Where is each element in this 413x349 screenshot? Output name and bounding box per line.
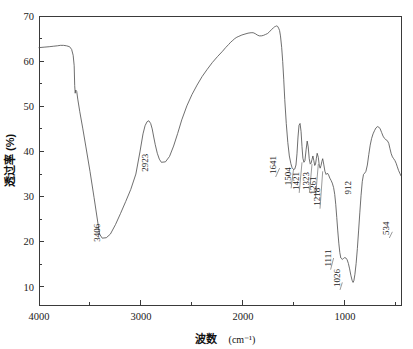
spectrum-plot-svg: 102030405060704000300020001000 340629231… bbox=[0, 0, 413, 349]
x-tick-label: 2000 bbox=[232, 311, 253, 322]
x-tick-label: 3000 bbox=[130, 311, 151, 322]
plot-frame bbox=[39, 16, 401, 305]
peak-label: 534 bbox=[381, 221, 391, 235]
y-tick-label: 50 bbox=[24, 101, 35, 112]
peak-annotations-layer: 3406292316411504142113231261121811111026… bbox=[92, 153, 393, 290]
x-tick-label: 4000 bbox=[29, 311, 50, 322]
peak-label: 1218 bbox=[312, 187, 322, 206]
spectrum-curve-layer bbox=[39, 26, 401, 282]
peak-label: 1111 bbox=[323, 250, 333, 267]
x-tick-label: 1000 bbox=[334, 311, 355, 322]
y-tick-label: 10 bbox=[24, 282, 35, 293]
x-axis-title: 波数 bbox=[195, 332, 218, 345]
peak-label: 1641 bbox=[268, 156, 278, 174]
ftir-spectrum-figure: 102030405060704000300020001000 340629231… bbox=[0, 0, 413, 349]
y-tick-label: 20 bbox=[24, 236, 35, 247]
y-tick-label: 30 bbox=[24, 191, 35, 202]
y-axis-title: 透过率 (%) bbox=[3, 134, 16, 188]
y-tick-label: 40 bbox=[24, 146, 35, 157]
y-tick-label: 70 bbox=[24, 11, 35, 22]
x-axis-unit: (cm⁻¹) bbox=[229, 334, 256, 346]
plot-axes: 102030405060704000300020001000 bbox=[24, 11, 402, 322]
peak-label: 1026 bbox=[332, 268, 342, 287]
peak-label: 2923 bbox=[140, 153, 150, 172]
spectrum-curve bbox=[39, 26, 401, 282]
peak-label: 912 bbox=[343, 181, 353, 195]
peak-label: 1421 bbox=[291, 172, 301, 190]
peak-label: 3406 bbox=[92, 223, 102, 242]
y-tick-label: 60 bbox=[24, 56, 35, 67]
